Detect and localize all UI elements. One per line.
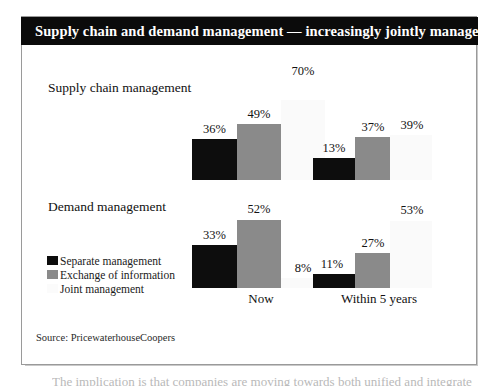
- value-demand-future-joint: 53%: [391, 203, 433, 218]
- value-demand-now-separate: 33%: [192, 228, 237, 243]
- legend-item-joint-management: Joint management: [47, 282, 175, 295]
- legend-item-separate-management: Separate management: [47, 254, 175, 267]
- value-demand-future-separate: 11%: [311, 257, 353, 272]
- axis-label-within-5-years: Within 5 years: [327, 291, 431, 307]
- figure-page: Supply chain and demand management — inc…: [0, 0, 503, 386]
- legend-label-separate: Separate management: [60, 255, 161, 267]
- panel-label-demand: Demand management: [48, 199, 166, 215]
- value-supply-future-separate: 13%: [313, 141, 355, 156]
- bar-supply-now-separate: [192, 139, 237, 180]
- value-supply-now-joint: 70%: [281, 64, 325, 79]
- axis-label-now: Now: [237, 291, 285, 307]
- legend-swatch-icon-exchange: [47, 270, 58, 279]
- panel-label-supply-chain: Supply chain management: [48, 80, 191, 96]
- bar-supply-future-exchange: [355, 137, 390, 180]
- value-supply-now-separate: 36%: [192, 122, 237, 137]
- bar-supply-future-separate: [313, 158, 355, 180]
- figure-caption-partial: The implication is that companies are mo…: [52, 374, 472, 386]
- legend-item-exchange-of-information: Exchange of information: [47, 268, 175, 281]
- figure-title-bar: Supply chain and demand management — inc…: [21, 17, 478, 45]
- value-demand-now-exchange: 52%: [237, 202, 281, 217]
- bar-supply-now-exchange: [237, 124, 281, 180]
- bar-demand-future-joint: [390, 221, 432, 288]
- legend-label-joint: Joint management: [60, 283, 144, 295]
- bar-supply-future-joint: [390, 135, 432, 180]
- bar-demand-future-exchange: [355, 253, 390, 288]
- legend: Separate management Exchange of informat…: [47, 254, 175, 296]
- figure-title: Supply chain and demand management — inc…: [21, 23, 487, 40]
- legend-swatch-icon-joint: [47, 284, 58, 293]
- legend-swatch-icon-separate: [47, 256, 58, 265]
- figure-frame: [21, 16, 477, 365]
- legend-label-exchange: Exchange of information: [60, 269, 175, 281]
- bar-demand-now-separate: [192, 245, 237, 288]
- value-supply-now-exchange: 49%: [237, 107, 281, 122]
- bar-demand-future-separate: [313, 274, 355, 288]
- value-demand-future-exchange: 27%: [353, 236, 393, 251]
- source-note: Source: PricewaterhouseCoopers: [36, 332, 175, 343]
- value-supply-future-joint: 39%: [391, 118, 433, 133]
- bar-demand-now-exchange: [237, 220, 281, 288]
- value-supply-future-exchange: 37%: [353, 120, 393, 135]
